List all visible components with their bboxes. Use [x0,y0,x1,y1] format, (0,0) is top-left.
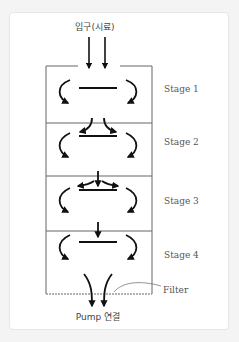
outlet-arrows [84,274,112,306]
inlet-label: 입구(시료) [75,21,114,32]
stage-1-label: Stage 1 [164,84,199,94]
filter-label: Filter [163,285,189,295]
stage-2-label: Stage 2 [164,137,199,147]
cascade-impactor-diagram: 입구(시료) [0,0,239,342]
stage-3-flow [60,171,137,212]
filter-leader-line [114,283,161,292]
outlet-label: Pump 연결 [76,312,120,322]
stage-4-label: Stage 4 [164,250,199,260]
inlet-arrows [89,37,105,68]
stage-1-flow [60,80,137,103]
stage-2-flow [60,118,137,157]
stage-3-label: Stage 3 [164,196,199,206]
stage-4-flow [60,222,137,259]
impactor-body [46,66,152,294]
